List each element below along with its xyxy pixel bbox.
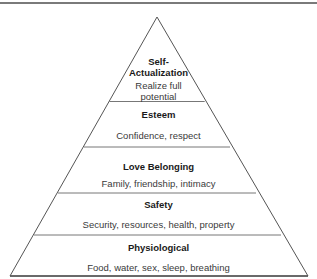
level-description: Security, resources, health, property	[0, 219, 317, 231]
level-title: Esteem	[0, 109, 317, 121]
level-title: Love Belonging	[0, 161, 317, 173]
level-description: potential	[0, 91, 317, 103]
level-description: Food, water, sex, sleep, breathing	[0, 262, 317, 274]
level-description: Confidence, respect	[0, 130, 317, 142]
level-title: Safety	[0, 199, 317, 211]
level-title: Actualization	[0, 67, 317, 79]
level-description: Family, friendship, intimacy	[0, 178, 317, 190]
level-title: Physiological	[0, 242, 317, 254]
